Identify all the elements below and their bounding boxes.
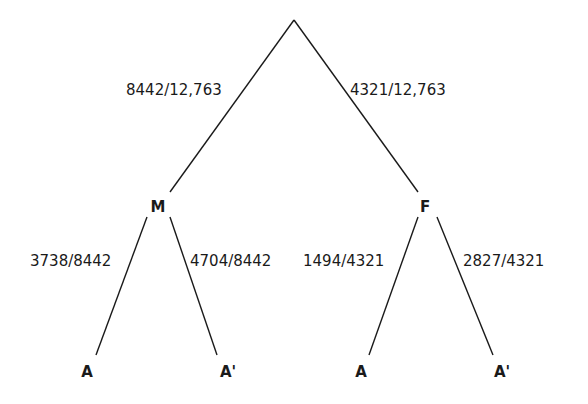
edge-label-f-a-prime: 2827/4321	[463, 252, 544, 270]
branch-m-to-a-prime	[170, 217, 217, 355]
node-f: F	[420, 198, 430, 216]
edge-label-m-a-prime: 4704/8442	[190, 252, 271, 270]
branch-root-to-f	[294, 20, 418, 192]
edge-label-root-f: 4321/12,763	[350, 81, 446, 99]
edge-label-m-a: 3738/8442	[30, 252, 111, 270]
edge-label-f-a: 1494/4321	[303, 252, 384, 270]
leaf-m-a: A	[81, 363, 93, 381]
probability-tree-diagram: 8442/12,763 4321/12,763 M F 3738/8442 47…	[0, 0, 588, 404]
edge-label-root-m: 8442/12,763	[126, 81, 222, 99]
leaf-f-a: A	[355, 363, 367, 381]
branch-f-to-a	[369, 217, 418, 355]
branch-f-to-a-prime	[437, 217, 493, 355]
branch-m-to-a	[96, 217, 147, 355]
branch-root-to-m	[170, 20, 294, 192]
leaf-m-a-prime: A'	[220, 363, 236, 381]
leaf-f-a-prime: A'	[494, 363, 510, 381]
node-m: M	[151, 198, 166, 216]
